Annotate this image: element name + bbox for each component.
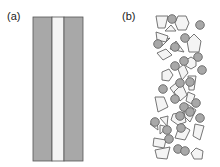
panel-a-strip (33, 17, 83, 161)
diagram (0, 0, 220, 167)
panel-b-packing (150, 15, 206, 159)
